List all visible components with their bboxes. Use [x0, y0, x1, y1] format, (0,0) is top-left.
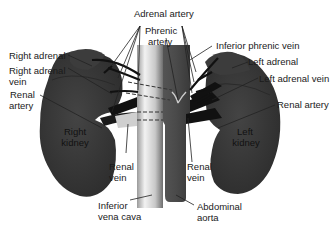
label-phrenic-artery-line1: Phrenic — [145, 25, 177, 36]
label-right-kidney-line1: Right — [55, 126, 95, 137]
label-adrenal-artery: Adrenal artery — [134, 8, 194, 19]
label-left-adrenal: Left adrenal — [248, 56, 298, 67]
label-abdominal-aorta-line1: Abdominal — [197, 201, 242, 212]
label-inferior-phrenic-vein: Inferior phrenic vein — [216, 40, 299, 51]
label-left-adrenal-vein: Left adrenal vein — [259, 73, 329, 84]
label-renal-vein-left-line2: vein — [187, 172, 204, 183]
label-right-adrenal: Right adrenal — [9, 50, 66, 61]
label-right-adrenal-vein-line2: vein — [9, 76, 26, 87]
label-right-kidney-line2: kidney — [52, 137, 98, 148]
label-phrenic-artery-line2: artery — [148, 36, 172, 47]
label-inferior-vena-cava-line1: Inferior — [98, 200, 128, 211]
label-renal-artery-left-line1: Renal — [10, 89, 35, 100]
label-left-kidney-line1: Left — [225, 126, 265, 137]
inferior-vena-cava — [137, 45, 163, 208]
label-right-adrenal-vein-line1: Right adrenal — [9, 65, 66, 76]
label-left-kidney-line2: kidney — [223, 137, 269, 148]
label-renal-vein-left-line1: Renal — [187, 161, 212, 172]
label-renal-vein-right-line2: vein — [109, 172, 126, 183]
kidney-anatomy-diagram: Adrenal artery Phrenic artery Inferior p… — [0, 0, 332, 227]
label-abdominal-aorta-line2: aorta — [197, 212, 219, 223]
label-inferior-vena-cava-line2: vena cava — [98, 211, 141, 222]
abdominal-aorta — [162, 45, 190, 202]
label-renal-vein-right-line1: Renal — [109, 161, 134, 172]
label-renal-artery-right: Renal artery — [277, 99, 329, 110]
label-renal-artery-left-line2: artery — [9, 100, 33, 111]
